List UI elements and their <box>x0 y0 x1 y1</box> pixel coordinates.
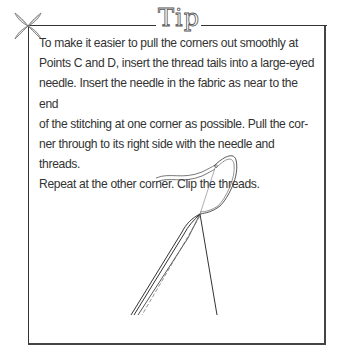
tip-title: Tip <box>156 4 202 32</box>
tip-box-top-border-right <box>201 25 327 26</box>
tip-box-top-border-left <box>28 25 156 26</box>
tip-line: needle. Insert the needle in the fabric … <box>39 73 318 113</box>
tip-line: To make it easier to pull the corners ou… <box>39 33 318 53</box>
tip-line: of the stitching at one corner as possib… <box>39 114 318 134</box>
needle-with-thread-icon <box>120 150 260 320</box>
tip-line: Points C and D, insert the thread tails … <box>39 53 318 73</box>
